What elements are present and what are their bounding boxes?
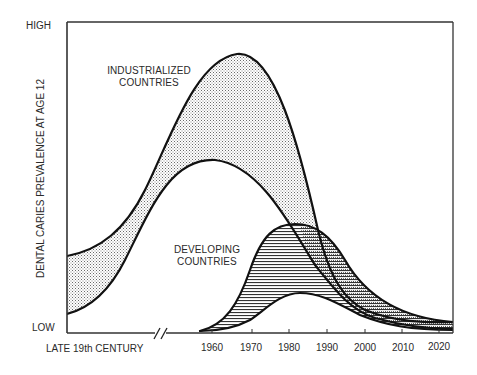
annotation-industrialized-line2: COUNTRIES — [119, 77, 179, 88]
x-label-1990: 1990 — [316, 342, 339, 353]
x-label-2020: 2020 — [428, 341, 451, 352]
x-label-1980: 1980 — [278, 342, 301, 353]
x-label-1960: 1960 — [201, 342, 224, 353]
caries-chart: HIGH LOW DENTAL CARIES PREVALENCE AT AGE… — [0, 0, 477, 375]
y-label-low: LOW — [32, 322, 55, 333]
y-label-high: HIGH — [26, 20, 51, 31]
annotation-industrialized-line1: INDUSTRIALIZED — [107, 65, 191, 76]
annotation-developing-line1: DEVELOPING — [174, 244, 240, 255]
y-axis-title: DENTAL CARIES PREVALENCE AT AGE 12 — [35, 79, 46, 278]
x-label-2010: 2010 — [392, 342, 415, 353]
annotation-developing-line2: COUNTRIES — [177, 256, 237, 267]
x-label-2000: 2000 — [354, 342, 377, 353]
x-label-late-19th-century: LATE 19th CENTURY — [46, 343, 144, 354]
x-label-1970: 1970 — [240, 342, 263, 353]
axis-break-icon — [154, 328, 167, 339]
